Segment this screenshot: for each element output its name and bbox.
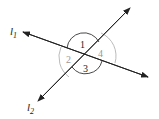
- angle-4-arc: [101, 33, 116, 63]
- angle-4-label: 4: [98, 48, 103, 59]
- angle-3-label: 3: [83, 63, 88, 74]
- angle-diagram: l1 l2 1 2 3 4: [0, 0, 159, 119]
- angle-1-label: 1: [80, 39, 85, 50]
- line-l2-label: l2: [27, 101, 34, 116]
- line-l1-label: l1: [10, 25, 17, 40]
- angle-2-label: 2: [66, 54, 71, 65]
